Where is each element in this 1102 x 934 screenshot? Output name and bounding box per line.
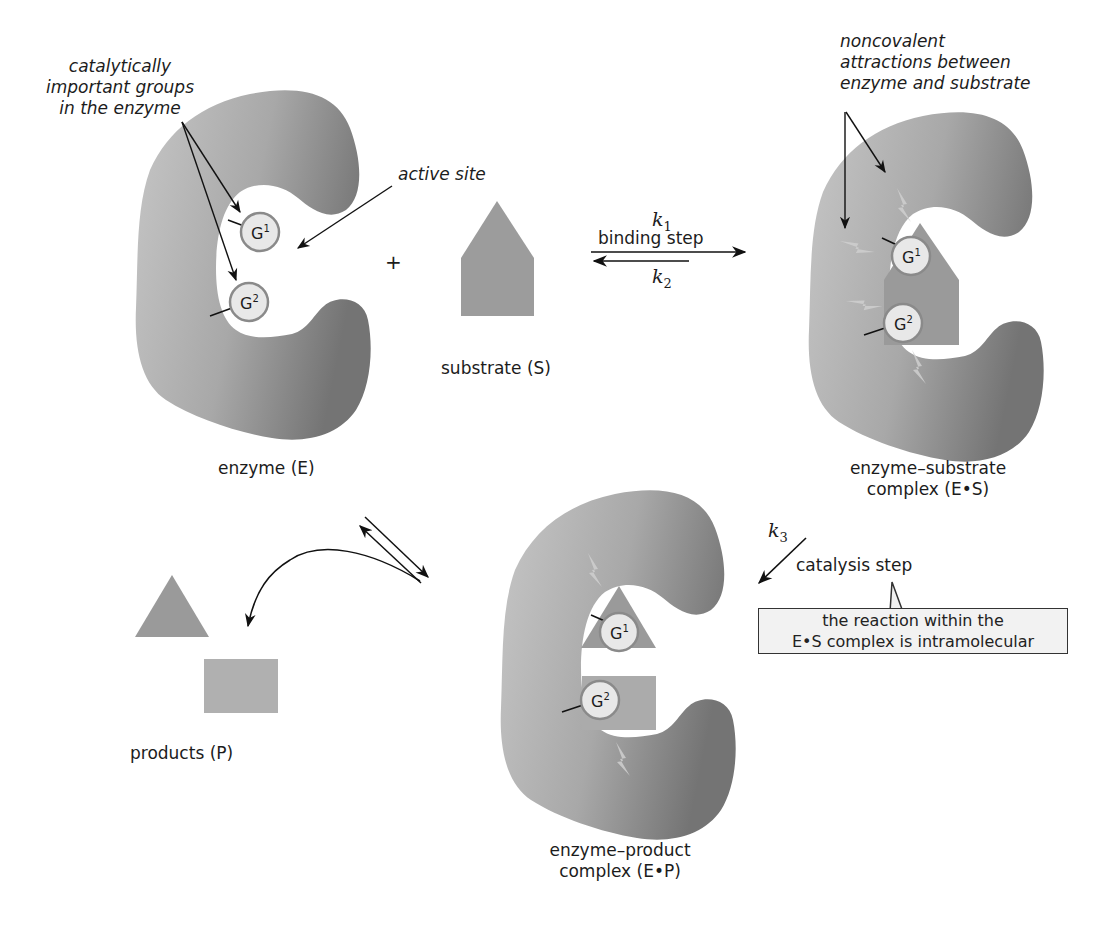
g1-group-free: G1 [241,213,279,251]
release-reverse-arrow [360,526,421,583]
k-symbol: k [768,519,780,541]
active-site-label: active site [398,164,486,185]
enzyme-label: enzyme (E) [218,458,315,479]
substrate-label: substrate (S) [441,358,551,379]
es-complex-label: enzyme–substrate complex (E•S) [828,458,1028,500]
label-line: noncovalent [840,31,1031,52]
k3-label: k3 [768,520,788,548]
g1-group-ep: G1 [600,613,638,651]
g2-group-es: G2 [884,304,922,342]
plus-sign: + [385,252,402,273]
g2-group-free: G2 [230,283,268,321]
g1-group-es: G1 [892,237,930,275]
binding-step-label: binding step [598,228,704,249]
k2-label: k2 [652,266,672,294]
release-curved-arrow [248,550,420,626]
label-line: important groups [20,77,220,98]
k-symbol: k [652,265,664,287]
catalysis-step-label: catalysis step [796,555,912,576]
product-triangle [135,575,209,637]
label-line: enzyme and substrate [840,73,1031,94]
label-line: complex (E•P) [520,861,720,882]
label-line: catalytically [20,56,220,77]
callout-line: E•S complex is intramolecular [765,631,1061,652]
label-line: enzyme–product [520,840,720,861]
g2-group-ep: G2 [581,681,619,719]
intramolecular-callout: the reaction within the E•S complex is i… [758,608,1068,654]
label-line: complex (E•S) [828,479,1028,500]
ep-complex-label: enzyme–product complex (E•P) [520,840,720,882]
enzyme-free [136,90,371,439]
label-line: enzyme–substrate [828,458,1028,479]
callout-line: the reaction within the [765,610,1061,631]
substrate-shape [461,201,534,316]
label-line: attractions between [840,52,1031,73]
k-subscript: 2 [664,276,672,291]
catalytic-groups-label: catalytically important groups in the en… [20,56,220,119]
product-square [204,659,278,713]
products-label: products (P) [130,743,233,764]
label-line: in the enzyme [20,98,220,119]
noncovalent-label: noncovalent attractions between enzyme a… [840,31,1031,94]
k-symbol: k [652,208,664,230]
k-subscript: 3 [780,530,788,545]
enzyme-ep-complex [501,490,736,839]
